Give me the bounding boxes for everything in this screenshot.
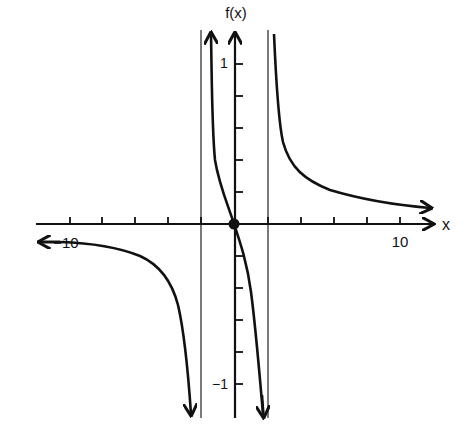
x-tick-label-10: 10	[392, 233, 409, 250]
x-tick-label-neg10: −10	[53, 234, 78, 251]
y-axis-label: f(x)	[225, 4, 247, 21]
y-tick-label-neg1: −1	[212, 376, 228, 392]
origin-point	[229, 219, 240, 230]
x-axis-label: x	[442, 216, 450, 233]
function-graph: f(x) x 1 −1 −10 10	[0, 0, 474, 445]
y-tick-label-1: 1	[220, 55, 228, 71]
curve-left-branch	[37, 242, 191, 414]
curve-right-branch	[274, 34, 430, 208]
arrow-middle-bottom	[262, 395, 264, 416]
